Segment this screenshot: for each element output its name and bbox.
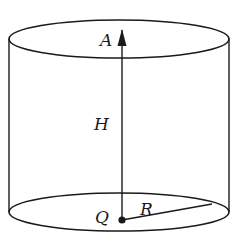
label-h: H — [93, 114, 110, 134]
cylinder-diagram: A H Q R — [0, 0, 239, 248]
bottom-ellipse — [9, 193, 229, 231]
label-a: A — [98, 30, 112, 50]
label-r: R — [139, 199, 153, 219]
top-ellipse — [9, 20, 229, 58]
arrowhead-icon — [118, 29, 127, 46]
radius-line — [122, 204, 212, 220]
label-q: Q — [95, 207, 109, 227]
center-point — [118, 216, 125, 223]
